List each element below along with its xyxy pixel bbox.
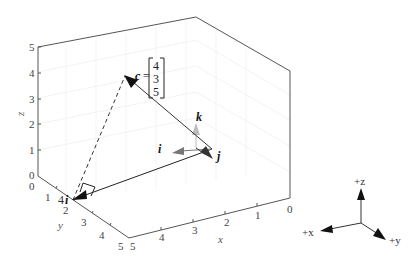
- y-tick-4: 4: [99, 229, 105, 241]
- c-component-z: 5: [153, 85, 159, 99]
- label-i: i: [158, 142, 162, 156]
- vector-diagram-canvas: 5 4 3 2 1 0 z 0 1 2 3 4 5 y 5 4 3 2 1 0 …: [0, 0, 419, 264]
- z-axis: 5 4 3 2 1 0 z: [14, 41, 41, 181]
- vector-j: j: [196, 146, 221, 163]
- y-tick-3: 3: [81, 216, 87, 228]
- y-tick-0: 0: [29, 180, 35, 192]
- c-component-y: 3: [153, 72, 159, 86]
- y-tick-1: 1: [45, 191, 51, 203]
- triad-x-label: +x: [302, 226, 314, 238]
- x-axis: 5 4 3 2 1 0 x: [130, 203, 293, 252]
- label-k: k: [196, 110, 202, 124]
- axes-frame: [38, 17, 290, 238]
- background-grid: [38, 21, 290, 200]
- label-c: c: [135, 69, 141, 83]
- triad-z-label: +z: [354, 175, 365, 187]
- z-tick-2: 2: [29, 118, 35, 130]
- y-axis-label: y: [57, 219, 63, 231]
- label-4i-coef: 4: [58, 193, 64, 207]
- triad-y-label: +y: [389, 234, 401, 246]
- x-tick-3: 3: [192, 224, 198, 236]
- z-axis-label: z: [14, 111, 26, 117]
- arrowhead-i-icon: [172, 147, 184, 155]
- x-axis-label: x: [217, 233, 223, 245]
- x-tick-1: 1: [255, 209, 261, 221]
- x-tick-2: 2: [224, 216, 230, 228]
- x-tick-5: 5: [130, 240, 136, 252]
- c-component-x: 4: [153, 59, 159, 73]
- y-tick-5: 5: [118, 240, 124, 252]
- vector-4i: 4 i: [58, 149, 212, 207]
- orientation-triad: +z +x +y: [302, 175, 401, 246]
- z-tick-3: 3: [29, 93, 35, 105]
- z-tick-4: 4: [29, 67, 35, 79]
- x-tick-0: 0: [287, 203, 293, 215]
- arrowhead-4i-icon: [72, 190, 87, 200]
- vector-k: k: [192, 110, 202, 148]
- matrix-right-bracket: [160, 58, 164, 98]
- x-tick-4: 4: [159, 231, 165, 243]
- triad-x-arrow-icon: [320, 225, 333, 233]
- triad-z-arrow-icon: [357, 188, 365, 200]
- z-tick-1: 1: [29, 144, 35, 156]
- z-tick-5: 5: [29, 41, 35, 53]
- triad-y-arrow-icon: [373, 228, 386, 240]
